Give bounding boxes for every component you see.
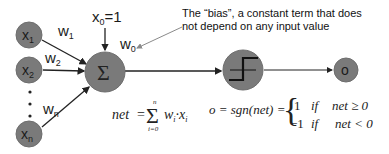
svg-text:n: n: [153, 98, 157, 106]
annotation-arrow: [137, 27, 182, 48]
bias-input-label: x0=1: [92, 8, 122, 27]
svg-text:−1: −1: [290, 116, 304, 131]
sigma-icon: Σ: [97, 60, 110, 85]
svg-text:if: if: [311, 116, 321, 131]
svg-text:=: =: [137, 107, 145, 122]
svg-text:i=0: i=0: [148, 125, 159, 133]
input-node-x1: x1: [16, 22, 42, 48]
net-equation: net = Σ n i=0 wi·xi: [112, 98, 188, 133]
edge-x2-sum: [43, 70, 84, 71]
svg-text:if: if: [311, 98, 321, 113]
bias-weight-w0: w0: [119, 35, 136, 54]
output-equation: o = sgn(net) = { 1 if net ≥ 0 −1 if net …: [209, 91, 373, 131]
weight-wn: wn: [42, 100, 59, 119]
svg-text:wi·xi: wi·xi: [164, 107, 188, 124]
bias-annotation-line1: The “bias”, a constant term that does: [182, 7, 362, 19]
weight-w2: w2: [44, 49, 61, 68]
weight-w1: w1: [57, 22, 74, 41]
svg-text:net: net: [112, 107, 130, 122]
perceptron-diagram: x1 x2 xn w1 w2 wn x0=1 w0 The “bias”, a …: [0, 0, 389, 154]
svg-text:net ≥ 0: net ≥ 0: [332, 98, 369, 113]
activation-node: [223, 50, 263, 90]
output-node: o: [334, 58, 358, 82]
ellipsis-dots: [28, 90, 31, 117]
svg-text:o = sgn(net) =: o = sgn(net) =: [209, 102, 285, 117]
svg-text:net < 0: net < 0: [335, 116, 373, 131]
svg-text:o: o: [341, 62, 349, 78]
bias-annotation-line2: not depend on any input value: [182, 20, 329, 32]
sum-node: Σ: [85, 52, 125, 92]
input-node-x2: x2: [16, 57, 42, 83]
input-node-xn: xn: [16, 121, 42, 147]
svg-text:1: 1: [294, 98, 301, 113]
